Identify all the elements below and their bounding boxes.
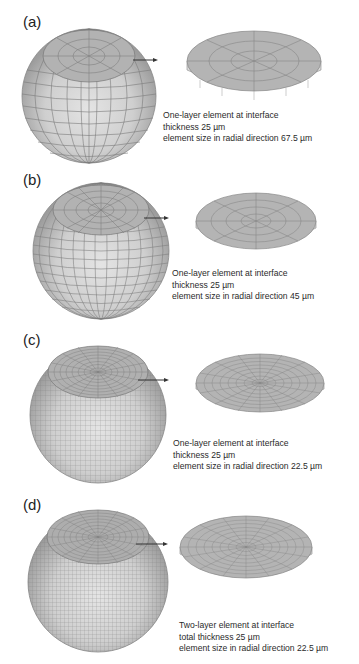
panel-a: (a)	[0, 0, 359, 165]
panel-d: (d)	[0, 490, 359, 664]
panel-b: (b)	[0, 165, 359, 325]
caption-line: element size in radial direction 22.5 µm	[179, 643, 328, 655]
caption-line: thickness 25 µm	[173, 450, 322, 462]
interface-disk	[196, 193, 316, 249]
sphere	[28, 510, 168, 652]
panel-caption: One-layer element at interface thickness…	[163, 110, 312, 145]
sphere	[22, 29, 156, 163]
panel-c: (c)	[0, 325, 359, 490]
panel-caption: One-layer element at interface thickness…	[172, 268, 314, 303]
interface-disk	[196, 354, 324, 412]
caption-line: Two-layer element at interface	[179, 620, 328, 632]
caption-line: One-layer element at interface	[173, 438, 322, 450]
sphere	[33, 183, 169, 319]
panel-caption: One-layer element at interface thickness…	[173, 438, 322, 473]
caption-line: element size in radial direction 45 µm	[172, 291, 314, 303]
caption-line: thickness 25 µm	[172, 280, 314, 292]
sphere	[30, 346, 166, 483]
caption-line: element size in radial direction 22.5 µm	[173, 461, 322, 473]
caption-line: thickness 25 µm	[163, 122, 312, 134]
caption-line: element size in radial direction 67.5 µm	[163, 133, 312, 145]
interface-disk	[180, 516, 312, 578]
caption-line: One-layer element at interface	[172, 268, 314, 280]
panel-caption: Two-layer element at interface total thi…	[179, 620, 328, 655]
caption-line: total thickness 25 µm	[179, 632, 328, 644]
interface-disk	[187, 31, 321, 100]
caption-line: One-layer element at interface	[163, 110, 312, 122]
